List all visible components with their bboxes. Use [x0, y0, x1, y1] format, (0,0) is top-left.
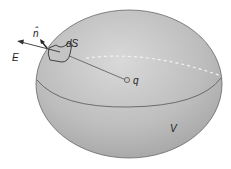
- field-label: E: [12, 52, 19, 63]
- closed-surface: [36, 10, 222, 158]
- normal-label: n̂: [33, 26, 39, 39]
- normal-arrow-head: [40, 39, 45, 44]
- field-arrow-head: [17, 40, 24, 45]
- gauss-surface-diagram: n̂ dS E q V: [0, 0, 231, 169]
- area-element-label: dS: [66, 38, 79, 49]
- charge-label: q: [133, 75, 139, 86]
- charge-marker: [124, 77, 129, 82]
